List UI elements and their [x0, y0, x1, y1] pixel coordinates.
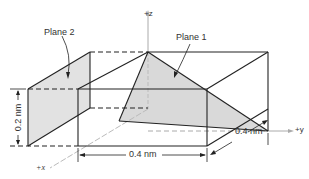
depth-dim-arrow-lower — [210, 150, 216, 155]
width-dim-arrow-right — [200, 153, 206, 157]
plane1-leader — [176, 44, 190, 74]
z-axis-label: +z — [144, 10, 153, 18]
plane-2-face — [28, 52, 90, 146]
depth-dimension-label: 0.4 nm — [235, 127, 263, 136]
width-dimension-label: 0.4 nm — [129, 150, 157, 159]
height-dim-arrow-top — [16, 90, 20, 95]
width-dim-arrow-left — [79, 153, 85, 157]
height-dimension-label: 0.2 nm — [14, 99, 23, 137]
x-axis-label: +x — [36, 164, 45, 172]
y-axis-arrow — [288, 129, 294, 133]
plane-1-label: Plane 1 — [176, 33, 207, 42]
depth-dim-arrow-upper — [262, 120, 268, 125]
top-right-diag — [207, 52, 268, 89]
plane-2-label: Plane 2 — [44, 28, 75, 37]
plane-1-face — [119, 52, 268, 131]
y-axis-label: +y — [295, 126, 304, 134]
height-dim-arrow-bottom — [16, 140, 20, 145]
